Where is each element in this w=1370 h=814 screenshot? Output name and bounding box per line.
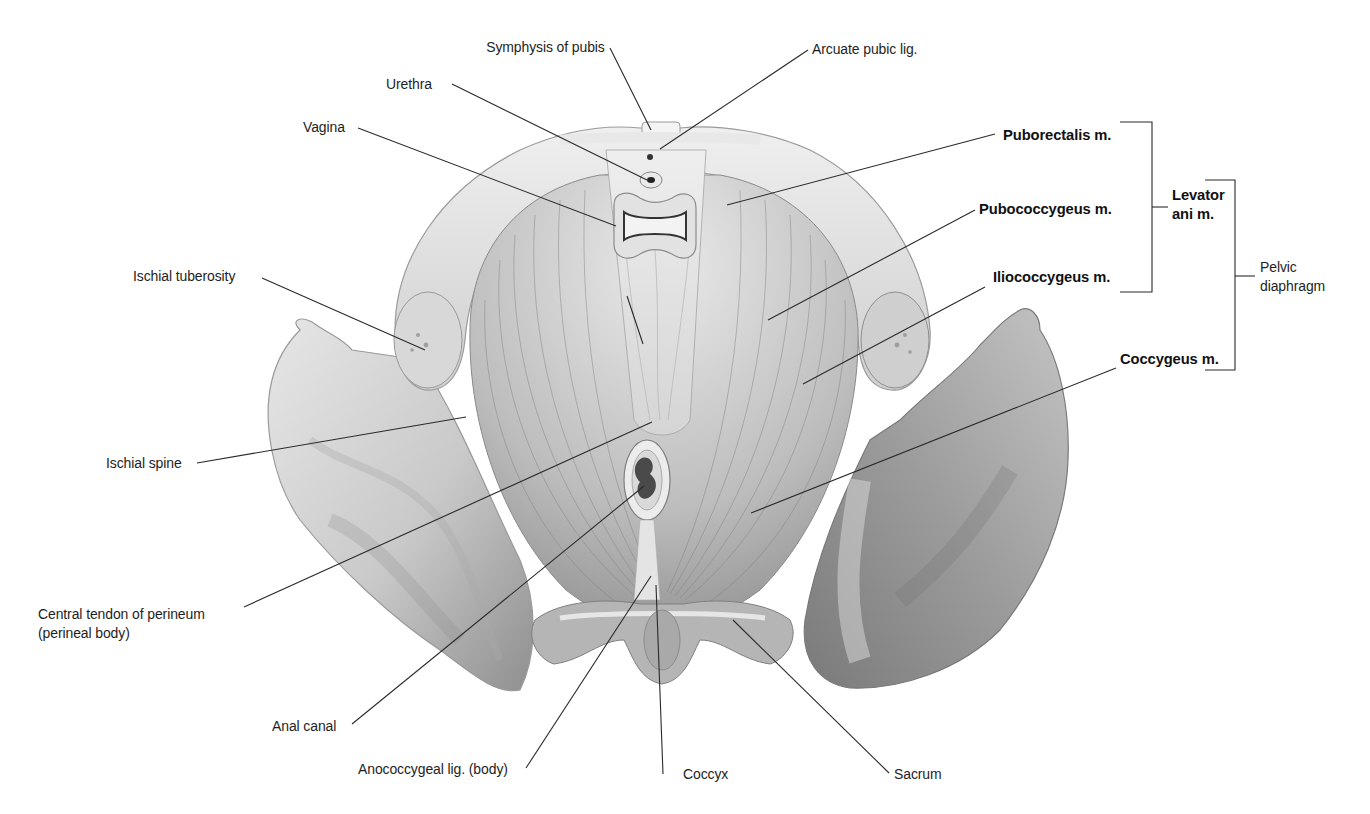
label-central-tendon-line1: Central tendon of perineum [38, 605, 205, 623]
label-levator-ani-line1: Levator [1172, 186, 1225, 204]
label-coccyx: Coccyx [683, 765, 728, 783]
label-urethra: Urethra [386, 75, 432, 93]
label-ischial-tuberosity: Ischial tuberosity [133, 267, 235, 285]
label-anal-canal: Anal canal [272, 717, 336, 735]
label-coccygeus: Coccygeus m. [1120, 350, 1219, 368]
label-central-tendon-line2: (perineal body) [38, 624, 130, 642]
label-ischial-spine: Ischial spine [106, 454, 182, 472]
anatomy-figure: Symphysis of pubis Arcuate pubic lig. Ur… [0, 0, 1370, 814]
label-puborectalis: Puborectalis m. [1003, 126, 1111, 144]
vaginal-orifice [614, 193, 696, 258]
label-pelvic-diaphragm-line1: Pelvic [1260, 258, 1297, 276]
label-anococcygeal-lig: Anococcygeal lig. (body) [358, 760, 508, 778]
label-levator-ani-line2: ani m. [1172, 205, 1214, 223]
label-vagina: Vagina [303, 118, 345, 136]
label-sacrum: Sacrum [894, 765, 942, 783]
label-iliococcygeus: Iliococcygeus m. [993, 268, 1110, 286]
sacrum-coccyx [532, 601, 793, 684]
pelvic-floor-illustration [0, 0, 1370, 814]
label-pelvic-diaphragm-line2: diaphragm [1260, 277, 1325, 295]
label-arcuate-pubic-lig: Arcuate pubic lig. [812, 40, 917, 58]
label-symphysis-of-pubis: Symphysis of pubis [486, 38, 605, 56]
label-pubococcygeus: Pubococcygeus m. [979, 200, 1112, 218]
